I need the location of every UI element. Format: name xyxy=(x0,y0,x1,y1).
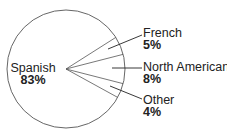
label-french-pct: 5% xyxy=(143,38,161,52)
label-spanish-pct: 83% xyxy=(20,73,45,87)
label-other-pct: 4% xyxy=(143,105,161,119)
label-north-american-pct: 8% xyxy=(143,72,161,86)
pie-chart: Spanish 83% French 5% North American 8% … xyxy=(0,0,227,132)
